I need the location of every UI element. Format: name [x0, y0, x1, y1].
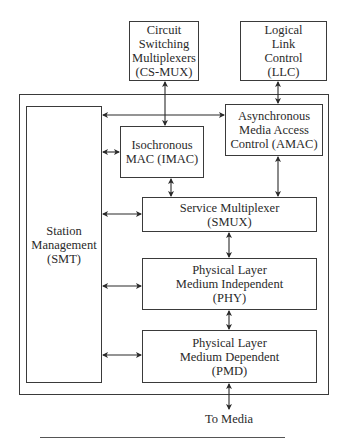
llc-label: Logical Link Control (LLC) — [264, 23, 302, 79]
smux-block: Service Multiplexer (SMUX) — [142, 197, 317, 232]
llc-block: Logical Link Control (LLC) — [240, 21, 327, 81]
phy-block: Physical Layer Medium Independent (PHY) — [142, 258, 317, 310]
smt-block: Station Management (SMT) — [26, 106, 102, 383]
cs-mux-block: Circuit Switching Multiplexers (CS-MUX) — [129, 21, 199, 81]
imac-label: Isochronous MAC (IMAC) — [126, 138, 199, 166]
bottom-rule — [40, 437, 285, 438]
smux-label: Service Multiplexer (SMUX) — [180, 201, 280, 229]
amac-label: Asynchronous Media Access Control (AMAC) — [230, 109, 317, 151]
cs-mux-label: Circuit Switching Multiplexers (CS-MUX) — [132, 23, 196, 79]
amac-block: Asynchronous Media Access Control (AMAC) — [225, 104, 323, 156]
pmd-block: Physical Layer Medium Dependent (PMD) — [142, 330, 317, 383]
to-media-label: To Media — [179, 412, 279, 427]
imac-block: Isochronous MAC (IMAC) — [120, 126, 204, 178]
phy-label: Physical Layer Medium Independent (PHY) — [176, 263, 283, 305]
pmd-label: Physical Layer Medium Dependent (PMD) — [180, 336, 280, 378]
smt-label: Station Management (SMT) — [31, 224, 96, 266]
